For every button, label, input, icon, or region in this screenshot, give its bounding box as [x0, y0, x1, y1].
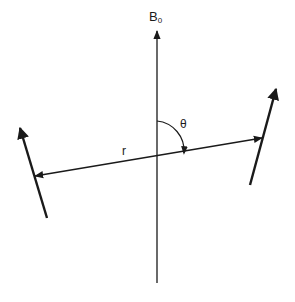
dipolar-diagram [0, 0, 295, 302]
internuclear-vector [35, 138, 262, 176]
left-spin-arrow [20, 128, 47, 218]
right-spin-arrow [250, 89, 276, 185]
field-label: B0 [149, 10, 162, 25]
angle-label: θ [180, 118, 187, 130]
field-label-subscript: 0 [158, 16, 162, 25]
field-label-main: B [149, 9, 158, 24]
distance-label: r [122, 145, 126, 157]
